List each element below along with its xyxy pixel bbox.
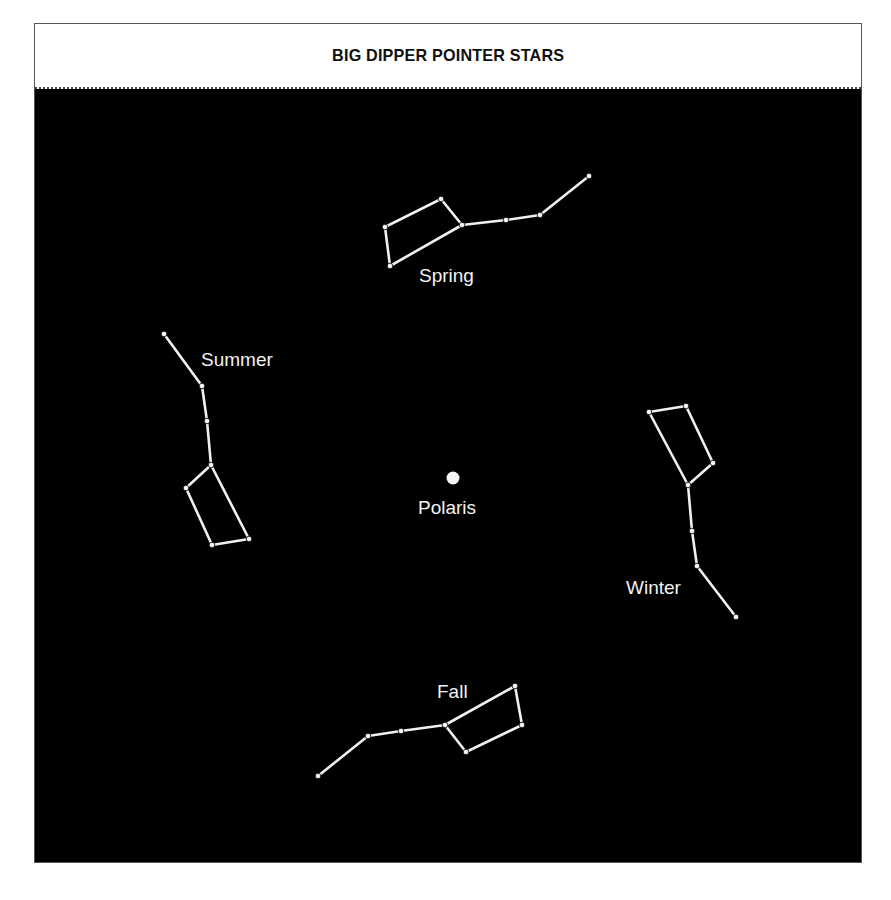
summer-star-icon bbox=[183, 485, 189, 491]
summer-line bbox=[212, 539, 249, 545]
summer-star-icon bbox=[208, 462, 214, 468]
fall-star-icon bbox=[463, 749, 469, 755]
summer-line bbox=[211, 465, 249, 539]
label-polaris: Polaris bbox=[418, 498, 476, 517]
fall-star-icon bbox=[512, 683, 518, 689]
winter-star-icon bbox=[710, 460, 716, 466]
winter-line bbox=[688, 463, 713, 485]
fall-line bbox=[466, 725, 522, 752]
spring-line bbox=[385, 227, 390, 266]
fall-line bbox=[515, 686, 522, 725]
fall-star-icon bbox=[365, 733, 371, 739]
spring-line bbox=[385, 199, 441, 227]
winter-star-icon bbox=[733, 614, 739, 620]
spring-star-icon bbox=[537, 212, 543, 218]
label-summer: Summer bbox=[201, 350, 273, 369]
fall-star-icon bbox=[442, 722, 448, 728]
winter-line bbox=[692, 531, 697, 566]
winter-star-icon bbox=[683, 403, 689, 409]
summer-star-icon bbox=[209, 542, 215, 548]
star-map bbox=[0, 0, 891, 900]
fall-star-icon bbox=[398, 728, 404, 734]
winter-line bbox=[649, 406, 686, 412]
spring-line bbox=[462, 220, 506, 225]
winter-star-icon bbox=[646, 409, 652, 415]
winter-line bbox=[649, 412, 688, 485]
winter-star-icon bbox=[689, 528, 695, 534]
spring-line bbox=[540, 176, 589, 215]
label-fall: Fall bbox=[437, 682, 468, 701]
label-spring: Spring bbox=[419, 266, 474, 285]
summer-star-icon bbox=[204, 418, 210, 424]
fall-line bbox=[401, 725, 445, 731]
summer-line bbox=[164, 334, 202, 386]
spring-star-icon bbox=[503, 217, 509, 223]
fall-line bbox=[368, 731, 401, 736]
spring-star-icon bbox=[382, 224, 388, 230]
summer-star-icon bbox=[246, 536, 252, 542]
summer-star-icon bbox=[161, 331, 167, 337]
winter-line bbox=[688, 485, 692, 531]
fall-line bbox=[318, 736, 368, 776]
spring-line bbox=[441, 199, 462, 225]
winter-line bbox=[697, 566, 736, 617]
summer-line bbox=[202, 386, 207, 421]
fall-star-icon bbox=[315, 773, 321, 779]
winter-star-icon bbox=[694, 563, 700, 569]
spring-star-icon bbox=[438, 196, 444, 202]
winter-star-icon bbox=[685, 482, 691, 488]
winter-line bbox=[686, 406, 713, 463]
spring-line bbox=[506, 215, 540, 220]
spring-star-icon bbox=[586, 173, 592, 179]
summer-star-icon bbox=[199, 383, 205, 389]
polaris-star-icon bbox=[447, 472, 460, 485]
spring-star-icon bbox=[387, 263, 393, 269]
spring-line bbox=[390, 225, 462, 266]
summer-line bbox=[186, 488, 212, 545]
spring-star-icon bbox=[459, 222, 465, 228]
label-winter: Winter bbox=[626, 578, 681, 597]
fall-line bbox=[445, 725, 466, 752]
summer-line bbox=[207, 421, 211, 465]
summer-line bbox=[186, 465, 211, 488]
fall-star-icon bbox=[519, 722, 525, 728]
